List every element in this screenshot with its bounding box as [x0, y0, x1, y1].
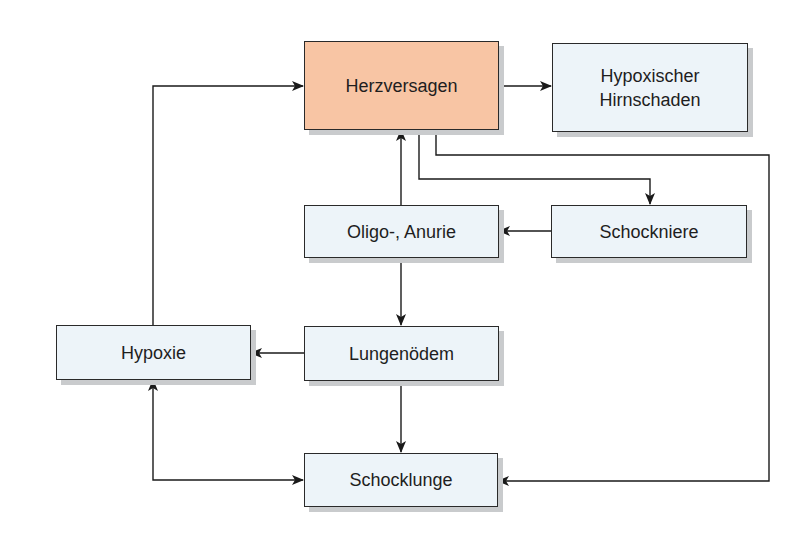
- node-label: Hypoxie: [121, 341, 186, 365]
- node-label: Herzversagen: [345, 74, 457, 98]
- pathophysiology-flowchart: Herzversagen Hypoxischer Hirnschaden Oli…: [0, 0, 801, 541]
- node-lungenoedem: Lungenödem: [304, 326, 499, 381]
- edge-herzversagen-to-schockniere: [419, 129, 650, 204]
- edge-herzversagen-to-schocklunge: [436, 129, 769, 481]
- edge-hypoxie-schocklunge-bidirectional: [153, 380, 303, 480]
- node-schockniere: Schockniere: [551, 205, 747, 258]
- edge-hypoxie-to-herzversagen: [153, 86, 303, 325]
- node-label: Schockniere: [599, 220, 698, 244]
- node-label: Oligo-, Anurie: [347, 220, 456, 244]
- node-schocklunge: Schocklunge: [304, 453, 498, 507]
- node-label: Hypoxischer Hirnschaden: [599, 64, 700, 112]
- node-oligo-anurie: Oligo-, Anurie: [304, 205, 499, 258]
- node-hypoxie: Hypoxie: [56, 325, 251, 380]
- node-label: Lungenödem: [349, 342, 454, 366]
- node-herzversagen: Herzversagen: [304, 41, 499, 130]
- node-label: Schocklunge: [349, 468, 452, 492]
- node-hypoxischer-hirnschaden: Hypoxischer Hirnschaden: [552, 43, 748, 132]
